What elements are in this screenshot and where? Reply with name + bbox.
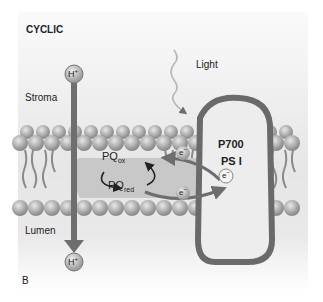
cyclic-electron-flow-diagram: [0, 0, 323, 302]
ps1-label: PS I: [221, 155, 242, 167]
proton-channel: [71, 83, 77, 243]
p700-label: P700: [218, 138, 244, 150]
pq-ox-label: PQox: [102, 150, 125, 164]
stroma-label: Stroma: [25, 92, 57, 103]
lumen-label: Lumen: [25, 225, 56, 236]
pq-red-label: PQred: [108, 179, 134, 193]
proton-top-label: H+: [68, 68, 78, 79]
electron-label-top: e−: [179, 146, 187, 157]
photosystem-i-complex: [198, 98, 272, 262]
electron-label-ps1: e−: [222, 169, 230, 180]
proton-arrow-head: [64, 240, 84, 253]
panel-label: B: [22, 275, 29, 286]
light-wave: [171, 50, 184, 112]
electron-label-bottom: e−: [179, 186, 187, 197]
diagram-title: CYCLIC: [26, 24, 63, 35]
light-label: Light: [196, 59, 218, 70]
proton-bottom-label: H+: [68, 256, 78, 267]
